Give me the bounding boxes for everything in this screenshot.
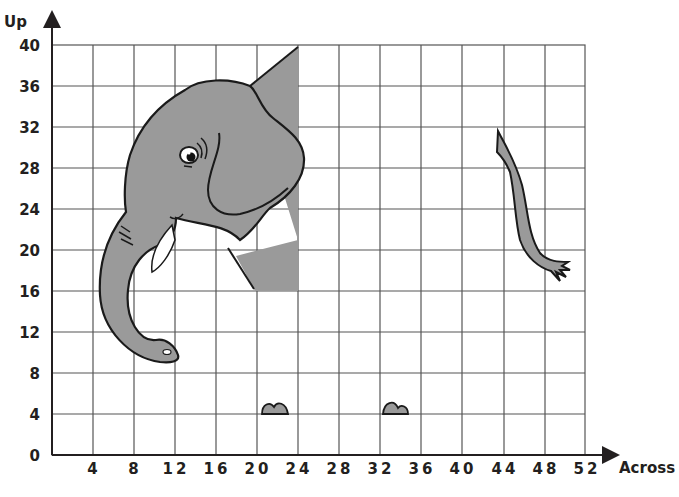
svg-text:8: 8 [128, 460, 141, 478]
svg-text:24: 24 [286, 460, 313, 478]
coordinate-grid-diagram: 0 4 8 12 16 20 24 28 32 36 40 4 8 12 16 … [0, 0, 679, 497]
svg-text:12: 12 [19, 324, 40, 342]
svg-text:4: 4 [87, 460, 100, 478]
svg-text:16: 16 [204, 460, 231, 478]
svg-text:4: 4 [30, 406, 40, 424]
elephant-head [100, 80, 304, 362]
svg-text:48: 48 [533, 460, 560, 478]
back-foot [383, 403, 408, 414]
svg-text:12: 12 [163, 460, 190, 478]
front-foot [262, 403, 288, 414]
svg-text:24: 24 [19, 201, 40, 219]
svg-text:36: 36 [19, 78, 40, 96]
svg-text:40: 40 [450, 460, 477, 478]
y-tick-labels: 0 4 8 12 16 20 24 28 32 36 40 [19, 37, 40, 465]
x-axis-arrow-icon [602, 446, 620, 464]
svg-text:8: 8 [30, 365, 40, 383]
svg-text:32: 32 [19, 119, 40, 137]
svg-text:16: 16 [19, 283, 40, 301]
svg-text:20: 20 [245, 460, 272, 478]
x-axis-title: Across [619, 459, 675, 477]
svg-text:0: 0 [30, 447, 40, 465]
x-tick-labels: 4 8 12 16 20 24 28 32 36 40 44 48 52 [87, 460, 600, 478]
elephant-drawing [100, 47, 570, 414]
svg-text:32: 32 [368, 460, 395, 478]
svg-text:44: 44 [492, 460, 519, 478]
y-axis-arrow-icon [43, 10, 61, 28]
svg-text:52: 52 [574, 460, 601, 478]
svg-text:40: 40 [19, 37, 40, 55]
svg-text:28: 28 [327, 460, 354, 478]
svg-text:28: 28 [19, 160, 40, 178]
svg-text:36: 36 [409, 460, 436, 478]
y-axis-title: Up [4, 13, 27, 31]
tail [497, 131, 570, 281]
svg-text:20: 20 [19, 242, 40, 260]
